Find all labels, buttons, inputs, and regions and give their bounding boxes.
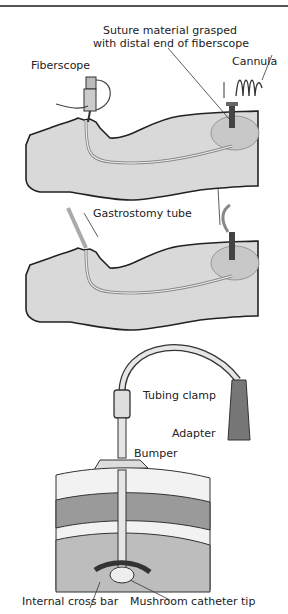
gastrostomy-tube-label: Gastrostomy tube	[93, 207, 192, 220]
fiberscope-icon	[56, 77, 110, 122]
tubing-clamp-label: Tubing clamp	[143, 389, 216, 402]
panel-2-body	[26, 205, 259, 330]
suture-label-line1: Suture material grasped	[103, 24, 237, 37]
gastrostomy-tube-icon	[68, 208, 86, 248]
mushroom-catheter-tip-label: Mushroom catheter tip	[130, 595, 255, 608]
cannula-label: Cannula	[232, 55, 277, 68]
up-arrow-icon	[218, 188, 220, 225]
adapter-label: Adapter	[172, 427, 216, 440]
panel-1-body	[26, 111, 259, 200]
fiberscope-label: Fiberscope	[31, 59, 90, 72]
tubing-clamp-icon	[114, 390, 130, 418]
bumper-label: Bumper	[134, 447, 178, 460]
panel-3-cross-section	[56, 348, 250, 608]
suture-label-line2: with distal end of fiberscope	[93, 37, 249, 50]
adapter-icon	[228, 380, 250, 440]
peg-procedure-diagram	[0, 0, 288, 614]
internal-cross-bar-label: Internal cross bar	[22, 595, 118, 608]
